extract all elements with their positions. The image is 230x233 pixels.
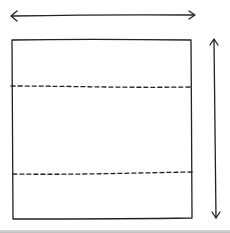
dashed-line-upper	[11, 86, 191, 87]
dashed-line-lower	[13, 172, 192, 174]
width-arrow-shaft	[12, 15, 194, 16]
height-arrow-shaft	[214, 40, 216, 218]
square-outline	[12, 39, 192, 219]
width-arrow	[11, 11, 195, 21]
height-arrow	[210, 39, 220, 218]
bottom-border	[0, 230, 230, 233]
diagram-canvas	[0, 0, 230, 233]
